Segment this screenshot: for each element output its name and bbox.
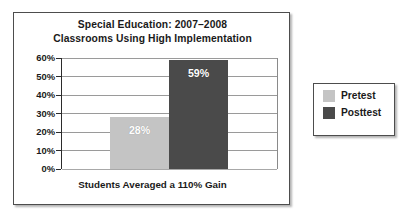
bar-posttest[interactable]: 59% bbox=[169, 60, 228, 169]
legend-item-pretest[interactable]: Pretest bbox=[323, 90, 394, 102]
y-axis-label-60pct: 60% bbox=[15, 53, 55, 62]
bar-pretest[interactable]: 28% bbox=[110, 117, 169, 169]
chart-caption: Students Averaged a 110% Gain bbox=[14, 179, 291, 190]
y-axis-label-40pct: 40% bbox=[15, 90, 55, 99]
chart-title-line-2: Classrooms Using High Implementation bbox=[14, 32, 291, 46]
chart-panel: Special Education: 2007–2008 Classrooms … bbox=[13, 12, 290, 205]
legend-label-posttest: Posttest bbox=[341, 107, 381, 119]
legend-swatch-posttest bbox=[323, 107, 335, 119]
bar-value-label-pretest: 28% bbox=[110, 124, 169, 136]
chart-legend: Pretest Posttest bbox=[313, 83, 395, 136]
chart-title: Special Education: 2007–2008 Classrooms … bbox=[14, 18, 291, 45]
y-axis-label-10pct: 10% bbox=[15, 146, 55, 155]
chart-title-line-1: Special Education: 2007–2008 bbox=[14, 18, 291, 32]
y-axis-label-0pct: 0% bbox=[15, 164, 55, 173]
gridline-60 bbox=[62, 58, 277, 59]
plot-area: 28%59% bbox=[61, 58, 278, 169]
legend-swatch-pretest bbox=[323, 90, 335, 102]
bar-value-label-posttest: 59% bbox=[169, 67, 228, 79]
y-axis-label-20pct: 20% bbox=[15, 127, 55, 136]
legend-label-pretest: Pretest bbox=[341, 90, 376, 102]
y-axis-label-30pct: 30% bbox=[15, 109, 55, 118]
legend-item-posttest[interactable]: Posttest bbox=[323, 107, 394, 119]
y-axis-label-50pct: 50% bbox=[15, 72, 55, 81]
